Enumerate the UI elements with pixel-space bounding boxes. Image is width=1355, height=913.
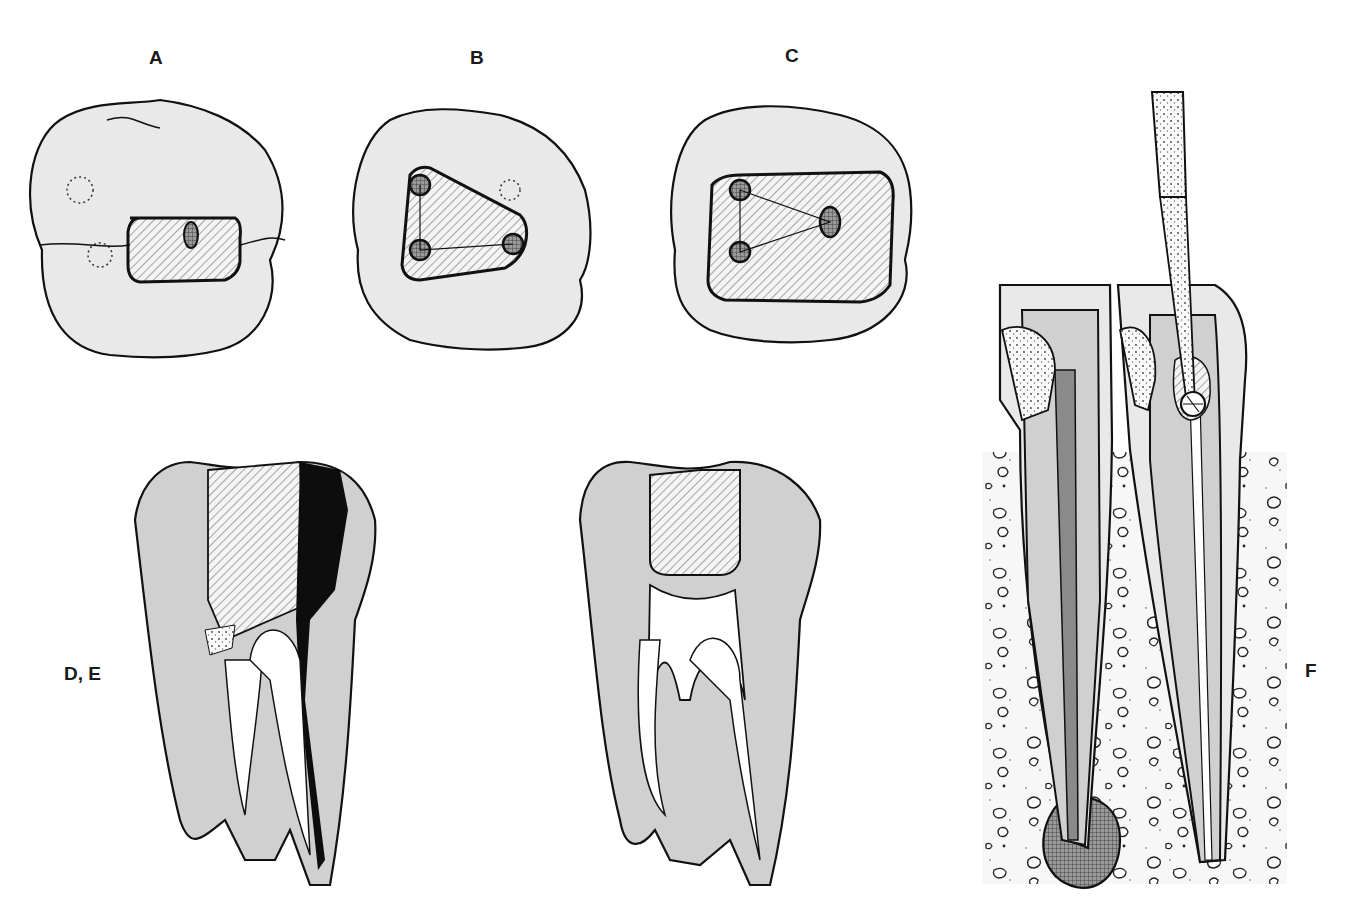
- dental-illustration: [0, 0, 1355, 913]
- panel-a-occlusal-tooth: [30, 100, 285, 357]
- panel-c-occlusal-tooth: [671, 106, 911, 342]
- panel-d-cross-section-tooth: [135, 462, 375, 885]
- panel-e-cross-section-tooth: [580, 462, 820, 885]
- panel-f-teeth-in-bone: [982, 92, 1287, 888]
- panel-b-occlusal-tooth: [353, 109, 590, 349]
